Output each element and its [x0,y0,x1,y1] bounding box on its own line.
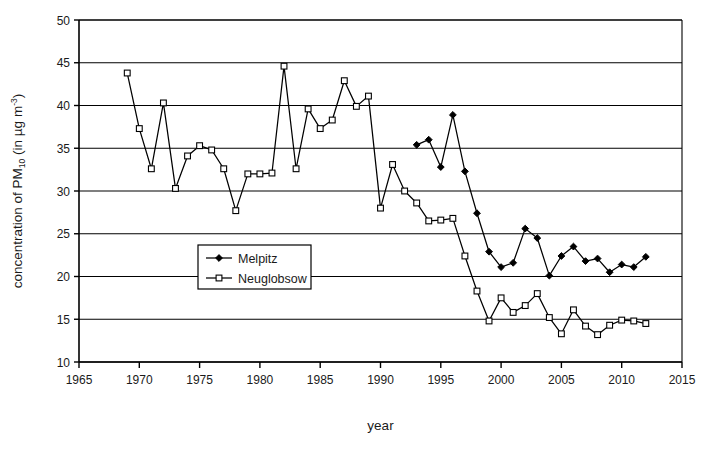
x-tick-label: 2000 [488,373,515,387]
x-tick-label: 2010 [608,373,635,387]
data-point-marker [269,170,275,176]
data-point-marker [305,106,311,112]
data-point-marker [390,162,396,168]
data-point-marker [619,317,625,323]
data-point-marker [559,331,565,337]
x-tick-label: 1985 [307,373,334,387]
x-tick-label: 1970 [126,373,153,387]
y-tick-label: 15 [57,313,71,327]
data-point-marker [173,186,179,192]
data-point-marker [317,126,323,132]
data-point-marker [148,166,154,172]
data-point-marker [534,291,540,297]
data-point-marker [209,147,215,153]
data-point-marker [366,93,372,99]
data-point-marker [245,171,251,177]
x-axis-title: year [367,418,394,433]
data-point-marker [486,318,492,324]
data-point-marker [426,218,432,224]
y-tick-label: 40 [57,99,71,113]
data-point-marker [185,153,191,159]
y-tick-label: 30 [57,185,71,199]
x-tick-label: 2005 [548,373,575,387]
y-tick-label: 25 [57,227,71,241]
data-point-marker [498,295,504,301]
x-tick-label: 2015 [669,373,696,387]
legend-label: Melpitz [238,252,278,266]
chart-legend: MelpitzNeuglobsow [198,245,311,289]
data-point-marker [293,166,299,172]
data-point-marker [643,321,649,327]
data-point-marker [161,100,167,106]
x-tick-label: 1975 [186,373,213,387]
pm10-time-series-chart: 1015202530354045501965197019751980198519… [0,0,714,450]
data-point-marker [438,217,444,223]
x-tick-label: 1965 [66,373,93,387]
data-point-marker [378,205,384,211]
data-point-marker [522,303,528,309]
y-tick-label: 50 [57,14,71,28]
data-point-marker [329,117,335,123]
data-point-marker [607,322,613,328]
data-point-marker [402,188,408,194]
data-point-marker [136,126,142,132]
data-point-marker [281,63,287,69]
y-tick-label: 20 [57,270,71,284]
chart-figure: 1015202530354045501965197019751980198519… [0,0,714,450]
y-axis-title: concentration of PM10 (in µg m-3) [9,94,27,288]
data-point-marker [546,315,552,321]
data-point-marker [595,332,601,338]
data-point-marker [571,307,577,313]
y-tick-label: 10 [57,356,71,370]
data-point-marker [510,310,516,316]
legend-label: Neuglobsow [238,272,308,286]
data-point-marker [631,318,637,324]
data-point-marker [462,253,468,259]
data-point-marker [450,215,456,221]
data-point-marker [197,143,203,149]
x-tick-label: 1980 [247,373,274,387]
data-point-marker [257,171,263,177]
x-tick-label: 1990 [367,373,394,387]
data-point-marker [221,166,227,172]
data-point-marker [124,70,130,76]
y-tick-label: 45 [57,56,71,70]
data-point-marker [583,323,589,329]
data-point-marker [233,208,239,214]
data-point-marker [341,78,347,84]
data-point-marker [474,288,480,294]
x-tick-label: 1995 [427,373,454,387]
data-point-marker [353,103,359,109]
data-point-marker [414,200,420,206]
y-tick-label: 35 [57,142,71,156]
data-point-marker [216,275,222,281]
